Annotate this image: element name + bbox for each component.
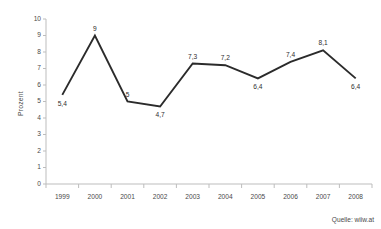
line-chart-figure: Prozent 012345678910 1999200020012002200… [0, 0, 381, 229]
data-point-label: 9 [93, 25, 97, 32]
y-tick-label: 1 [37, 163, 41, 170]
data-label-group: 5,4954,77,37,26,47,48,16,4 [58, 25, 361, 119]
x-tick-label: 2004 [218, 193, 233, 200]
y-tick-label: 5 [37, 97, 41, 104]
data-point-label: 7,4 [286, 51, 295, 58]
data-point-label: 5,4 [58, 100, 67, 107]
data-line [62, 36, 355, 107]
x-tick-label: 2002 [153, 193, 168, 200]
x-tick-label: 2003 [185, 193, 200, 200]
data-point-label: 7,3 [188, 53, 197, 60]
data-point-label: 6,4 [351, 83, 360, 90]
data-point-label: 8,1 [319, 39, 328, 46]
source-attribution: Quelle: wiiw.at [332, 216, 374, 223]
x-tick-label: 2006 [283, 193, 298, 200]
y-tick-label: 0 [37, 180, 41, 187]
data-point-label: 5 [126, 91, 130, 98]
y-tick-label: 8 [37, 48, 41, 55]
y-tick-label: 4 [37, 114, 41, 121]
x-axis: 1999200020012002200320042005200620072008 [46, 184, 372, 200]
data-point-label: 7,2 [221, 54, 230, 61]
x-tick-label: 2000 [88, 193, 103, 200]
x-tick-label: 1999 [55, 193, 70, 200]
y-tick-label: 2 [37, 147, 41, 154]
data-series-group [62, 36, 355, 107]
x-tick-label: 2007 [316, 193, 331, 200]
data-point-label: 4,7 [156, 111, 165, 118]
y-tick-label: 10 [34, 15, 42, 22]
y-tick-label: 9 [37, 31, 41, 38]
x-tick-label: 2001 [120, 193, 135, 200]
y-axis: 012345678910 [34, 15, 46, 187]
y-tick-label: 6 [37, 81, 41, 88]
y-tick-label: 3 [37, 130, 41, 137]
x-tick-label: 2008 [348, 193, 363, 200]
chart-plot-area: 012345678910 199920002001200220032004200… [0, 0, 381, 229]
y-tick-label: 7 [37, 64, 41, 71]
data-point-label: 6,4 [253, 83, 262, 90]
x-tick-label: 2005 [251, 193, 266, 200]
